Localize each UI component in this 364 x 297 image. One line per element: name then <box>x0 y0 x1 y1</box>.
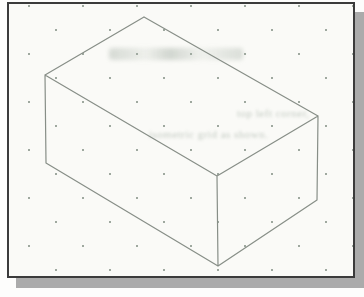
dot-grid-paper: top left corner, isometric grid as shown… <box>9 4 353 276</box>
scanned-page: top left corner, isometric grid as shown… <box>0 0 364 297</box>
figure-frame: top left corner, isometric grid as shown… <box>7 2 355 278</box>
isometric-box-drawing <box>9 4 353 276</box>
box-edges <box>45 17 318 266</box>
